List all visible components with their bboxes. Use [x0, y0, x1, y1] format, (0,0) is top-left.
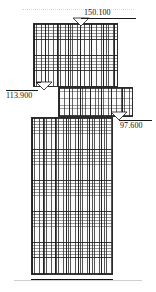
- elevation-drawing-sheet: 150.100 113.900 97.600: [0, 0, 156, 292]
- level-label-150100: 150.100: [84, 8, 111, 17]
- leader-line-150100: [81, 18, 136, 19]
- level-marker-triangle-150100: [73, 18, 89, 26]
- level-label-113900: 113.900: [6, 91, 32, 100]
- lower-tower-mass: [31, 117, 113, 275]
- level-marker-triangle-113900: [36, 82, 52, 90]
- leader-line-113900-upper: [36, 82, 41, 83]
- ground-line-extension: [14, 280, 142, 281]
- level-label-97600: 97.600: [120, 121, 143, 130]
- ground-line: [48, 274, 98, 275]
- sheet-top-artifact-line: [22, 9, 134, 10]
- level-marker-triangle-97600: [111, 112, 127, 120]
- upper-tower-mass: [33, 23, 118, 87]
